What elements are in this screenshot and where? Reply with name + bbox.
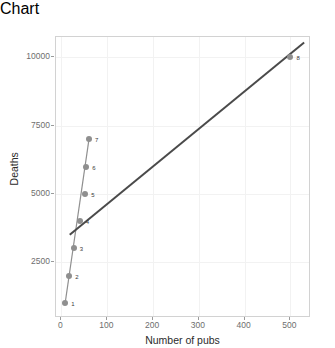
x-tick-label: 400 [237, 321, 251, 330]
y-tick-mark [51, 193, 54, 194]
data-point [71, 245, 77, 251]
data-point [83, 164, 89, 170]
y-tick-label: 5000 [31, 189, 50, 198]
x-tick-mark [198, 317, 199, 320]
data-point-label: 3 [80, 246, 83, 252]
y-tick-mark [51, 261, 54, 262]
y-tick-label: 7500 [31, 121, 50, 130]
data-point-label: 2 [75, 274, 78, 280]
data-point-label: 6 [92, 165, 95, 171]
data-point-label: 5 [91, 192, 94, 198]
data-point [62, 300, 68, 306]
x-tick-label: 200 [145, 321, 159, 330]
data-point [77, 218, 83, 224]
x-tick-mark [289, 317, 290, 320]
data-point [66, 273, 72, 279]
x-tick-mark [244, 317, 245, 320]
y-tick-label: 10000 [26, 52, 50, 61]
y-tick-label: 2500 [31, 257, 50, 266]
x-axis-title: Number of pubs [55, 335, 310, 347]
data-point-label: 1 [71, 301, 74, 307]
y-tick-mark [51, 125, 54, 126]
y-tick-mark [51, 56, 54, 57]
data-point [82, 191, 88, 197]
x-tick-label: 500 [282, 321, 296, 330]
data-point-label: 8 [296, 55, 299, 61]
plot-panel: 12345678 [55, 36, 310, 317]
scatter-chart: 25005000750010000 Deaths 12345678 Number… [0, 18, 335, 348]
x-tick-mark [106, 317, 107, 320]
x-tick-label: 300 [191, 321, 205, 330]
x-tick-mark [152, 317, 153, 320]
x-tick-label: 100 [99, 321, 113, 330]
y-axis-title: Deaths [9, 124, 21, 214]
data-point [86, 136, 92, 142]
data-point [287, 54, 293, 60]
data-points-layer: 12345678 [56, 37, 309, 316]
data-point-label: 4 [86, 219, 89, 225]
x-tick-label: 0 [58, 321, 63, 330]
x-tick-mark [60, 317, 61, 320]
data-point-label: 7 [95, 137, 98, 143]
